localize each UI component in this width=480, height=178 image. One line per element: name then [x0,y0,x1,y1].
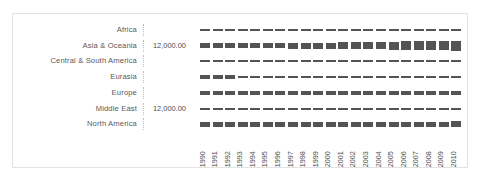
chart-mark [376,60,386,62]
year-tick-label: 2005 [387,151,394,167]
year-tick-label: 2010 [450,151,457,167]
chart-row: Africa [13,22,467,38]
chart-mark [401,60,411,62]
chart-mark [351,42,361,49]
chart-mark [451,41,461,51]
chart-mark [426,41,436,50]
chart-mark [313,60,323,62]
year-tick-label: 1993 [236,151,243,167]
row-label-central-south-america: Central & South America [13,53,137,69]
row-marks [199,38,463,54]
chart-mark [326,43,336,49]
year-tick-label: 2004 [374,151,381,167]
chart-mark [238,76,248,79]
chart-mark [439,60,449,62]
chart-mark [213,108,223,110]
row-axis-tick-icon [143,103,145,115]
chart-mark [213,91,223,95]
chart-mark [351,91,361,95]
chart-mark [250,76,260,78]
chart-mark [213,29,223,31]
chart-mark [213,122,223,127]
chart-mark [414,76,424,78]
chart-mark [363,122,373,127]
chart-mark [275,29,285,31]
row-marks [199,116,463,132]
chart-row: Europe [13,85,467,101]
chart-mark [200,60,210,62]
chart-mark [338,76,348,78]
year-tick-label: 2000 [324,151,331,167]
chart-mark [338,122,348,127]
chart-mark [313,29,323,31]
chart-mark [376,76,386,78]
row-axis-tick-icon [143,40,145,52]
chart-mark [301,91,311,95]
chart-mark [439,91,449,95]
chart-mark [213,75,223,78]
chart-mark [238,122,248,127]
chart-mark [263,29,273,31]
chart-mark [426,91,436,95]
chart-mark [288,108,298,110]
chart-mark [288,122,298,127]
year-tick-label: 1999 [311,151,318,167]
chart-mark [275,108,285,110]
chart-mark [414,29,424,31]
chart-mark [351,122,361,127]
chart-mark [363,42,373,49]
chart-mark [376,108,386,110]
chart-mark [250,91,260,95]
chart-mark [200,75,210,78]
chart-mark [288,43,298,49]
chart-mark [263,108,273,110]
row-axis-tick-icon [143,118,145,130]
chart-mark [451,121,461,126]
year-tick-label: 2007 [412,151,419,167]
chart-mark [351,60,361,62]
chart-mark [313,122,323,127]
chart-mark [414,108,424,110]
chart-mark [301,43,311,49]
chart-mark [313,108,323,110]
chart-mark [389,29,399,31]
chart-mark [363,91,373,95]
chart-mark [301,60,311,62]
row-axis-tick-icon [143,55,145,67]
chart-mark [225,29,235,31]
chart-mark [263,43,273,48]
chart-mark [225,43,235,48]
chart-mark [401,41,411,49]
chart-mark [401,108,411,110]
row-label-africa: Africa [13,22,137,38]
row-label-asia-oceania: Asia & Oceania [13,38,137,54]
chart-mark [301,108,311,110]
row-marks [199,69,463,85]
chart-mark [326,122,336,127]
chart-mark [225,108,235,110]
row-axis-tick-icon [143,71,145,83]
chart-mark [326,76,336,78]
chart-mark [439,76,449,78]
year-tick-label: 1996 [274,151,281,167]
chart-mark [301,29,311,31]
chart-mark [351,76,361,78]
chart-mark [301,122,311,127]
chart-mark [238,29,248,31]
chart-mark [250,108,260,110]
chart-mark [363,108,373,110]
chart-mark [200,43,210,48]
year-tick-label: 1992 [223,151,230,167]
chart-mark [250,29,260,31]
chart-mark [200,91,210,95]
year-tick-label: 2003 [362,151,369,167]
chart-mark [401,29,411,31]
chart-mark [275,91,285,95]
chart-mark [338,60,348,62]
chart-mark [426,29,436,31]
chart-mark [225,91,235,95]
chart-mark [401,76,411,78]
chart-mark [200,29,210,31]
chart-mark [351,108,361,110]
chart-panel: AfricaAsia & Oceania12,000.00Central & S… [12,13,468,168]
